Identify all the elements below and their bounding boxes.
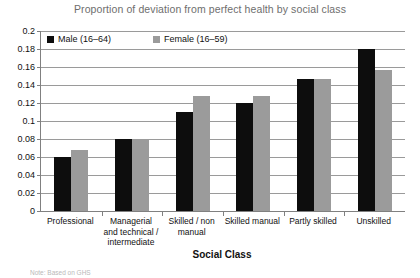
y-axis-label: 0.2	[22, 26, 35, 36]
x-axis-category-label: Partly skilled	[283, 216, 344, 227]
legend-label-male: Male (16–64)	[58, 34, 111, 44]
plot-area: 00.020.040.060.080.10.120.140.160.180.2	[40, 31, 405, 212]
bar-female	[253, 96, 270, 211]
bar-female	[314, 79, 331, 211]
y-axis-label: 0.18	[17, 44, 35, 54]
y-axis-label: 0.08	[17, 134, 35, 144]
bar-group	[41, 31, 102, 211]
chart-figure: Proportion of deviation from perfect hea…	[0, 0, 420, 278]
y-axis-label: 0.04	[17, 170, 35, 180]
y-axis-label: 0.1	[22, 116, 35, 126]
y-axis-label: 0.12	[17, 98, 35, 108]
y-axis-label: 0.06	[17, 152, 35, 162]
y-axis-label: 0.16	[17, 62, 35, 72]
legend-item-male: Male (16–64)	[47, 34, 111, 44]
bar-female	[193, 96, 210, 211]
y-axis-label: 0	[30, 206, 35, 216]
x-axis-title: Social Class	[40, 249, 404, 260]
bar-female	[375, 70, 392, 211]
bar-group	[102, 31, 163, 211]
legend-label-female: Female (16–59)	[164, 34, 228, 44]
x-axis-category-label: Managerialand technical /intermediate	[101, 216, 162, 248]
bar-male	[115, 139, 132, 211]
chart-legend: Male (16–64) Female (16–59)	[47, 34, 228, 44]
chart-footnote: Note: Based on GHS	[30, 269, 420, 277]
bar-group	[223, 31, 284, 211]
bar-male	[358, 49, 375, 211]
bar-male	[176, 112, 193, 211]
x-axis-category-label: Professional	[40, 216, 101, 227]
bar-male	[54, 157, 71, 211]
bar-group	[344, 31, 405, 211]
bar-male	[236, 103, 253, 211]
y-axis-tick	[37, 211, 41, 212]
x-axis-category-label: Skilled / nonmanual	[161, 216, 222, 237]
x-axis-category-label: Unskilled	[343, 216, 404, 227]
bar-group	[162, 31, 223, 211]
legend-swatch-female-icon	[153, 36, 160, 43]
bar-female	[132, 139, 149, 211]
bar-female	[71, 150, 88, 211]
bar-male	[297, 79, 314, 211]
legend-swatch-male-icon	[47, 36, 54, 43]
legend-item-female: Female (16–59)	[153, 34, 228, 44]
x-axis-category-label: Skilled manual	[222, 216, 283, 227]
y-axis-label: 0.02	[17, 188, 35, 198]
chart-title: Proportion of deviation from perfect hea…	[0, 3, 420, 15]
bar-group	[284, 31, 345, 211]
y-axis-label: 0.14	[17, 80, 35, 90]
